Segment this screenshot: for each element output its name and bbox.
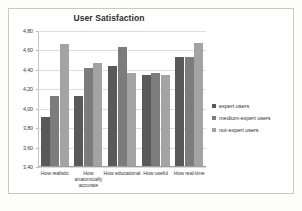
y-tick-mark <box>36 89 38 90</box>
chart-frame: User Satisfaction 4,804,604,404,204,003,… <box>8 8 294 194</box>
gridline <box>38 167 206 168</box>
legend-swatch-icon <box>212 116 216 120</box>
bar <box>127 73 136 166</box>
legend-label: medium-expert users <box>219 115 271 121</box>
chart-page: User Satisfaction 4,804,604,404,204,003,… <box>0 0 302 211</box>
y-tick-label: 4,00 <box>13 106 33 112</box>
y-tick-label: 4,20 <box>13 86 33 92</box>
bar <box>185 57 194 166</box>
bar <box>194 43 203 166</box>
legend-item[interactable]: not-expert users <box>212 126 298 134</box>
y-tick-label: 3,40 <box>13 164 33 170</box>
bar-group <box>108 31 136 166</box>
bar-group <box>142 31 170 166</box>
legend-swatch-icon <box>212 104 216 108</box>
bar <box>74 96 83 166</box>
bar <box>60 44 69 166</box>
y-tick-mark <box>36 128 38 129</box>
bar <box>175 57 184 166</box>
legend-swatch-icon <box>212 128 216 132</box>
y-tick-mark <box>36 109 38 110</box>
bar-group <box>175 31 203 166</box>
bar <box>142 75 151 166</box>
y-tick-label: 4,80 <box>13 28 33 34</box>
category-label: How anatomically accurate <box>70 170 108 189</box>
bar <box>93 63 102 166</box>
bar-group <box>74 31 102 166</box>
y-tick-mark <box>36 70 38 71</box>
category-label: How real-time <box>170 170 208 176</box>
legend-label: not-expert users <box>219 127 259 133</box>
category-label: How realistic <box>36 170 74 176</box>
chart-legend: expert usersmedium-expert usersnot-exper… <box>212 102 298 138</box>
y-tick-label: 4,60 <box>13 47 33 53</box>
y-tick-mark <box>36 31 38 32</box>
y-tick-label: 3,60 <box>13 145 33 151</box>
bar <box>108 66 117 166</box>
bar-group <box>41 31 69 166</box>
legend-item[interactable]: expert users <box>212 102 298 110</box>
category-label: How educational <box>103 170 141 176</box>
category-label: How useful <box>137 170 175 176</box>
bar <box>118 47 127 166</box>
plot-area <box>38 31 206 167</box>
bar <box>41 117 50 166</box>
bar <box>84 68 93 166</box>
y-tick-mark <box>36 167 38 168</box>
y-tick-label: 3,80 <box>13 125 33 131</box>
bar <box>161 75 170 166</box>
legend-item[interactable]: medium-expert users <box>212 114 298 122</box>
chart-title: User Satisfaction <box>9 13 209 23</box>
y-tick-label: 4,40 <box>13 67 33 73</box>
bar <box>50 96 59 166</box>
y-tick-mark <box>36 50 38 51</box>
y-tick-mark <box>36 148 38 149</box>
legend-label: expert users <box>219 103 249 109</box>
bar <box>151 73 160 166</box>
